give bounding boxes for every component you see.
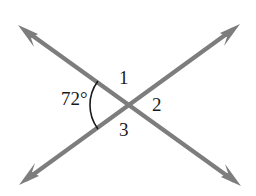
angle-1-label: 1 — [119, 68, 129, 87]
angle-3-label: 3 — [119, 120, 129, 139]
geometry-diagram: 72° 1 2 3 — [0, 0, 256, 196]
angle-measure-label: 72° — [61, 89, 88, 108]
angle-2-label: 2 — [152, 95, 162, 114]
geometry-canvas — [0, 0, 256, 196]
